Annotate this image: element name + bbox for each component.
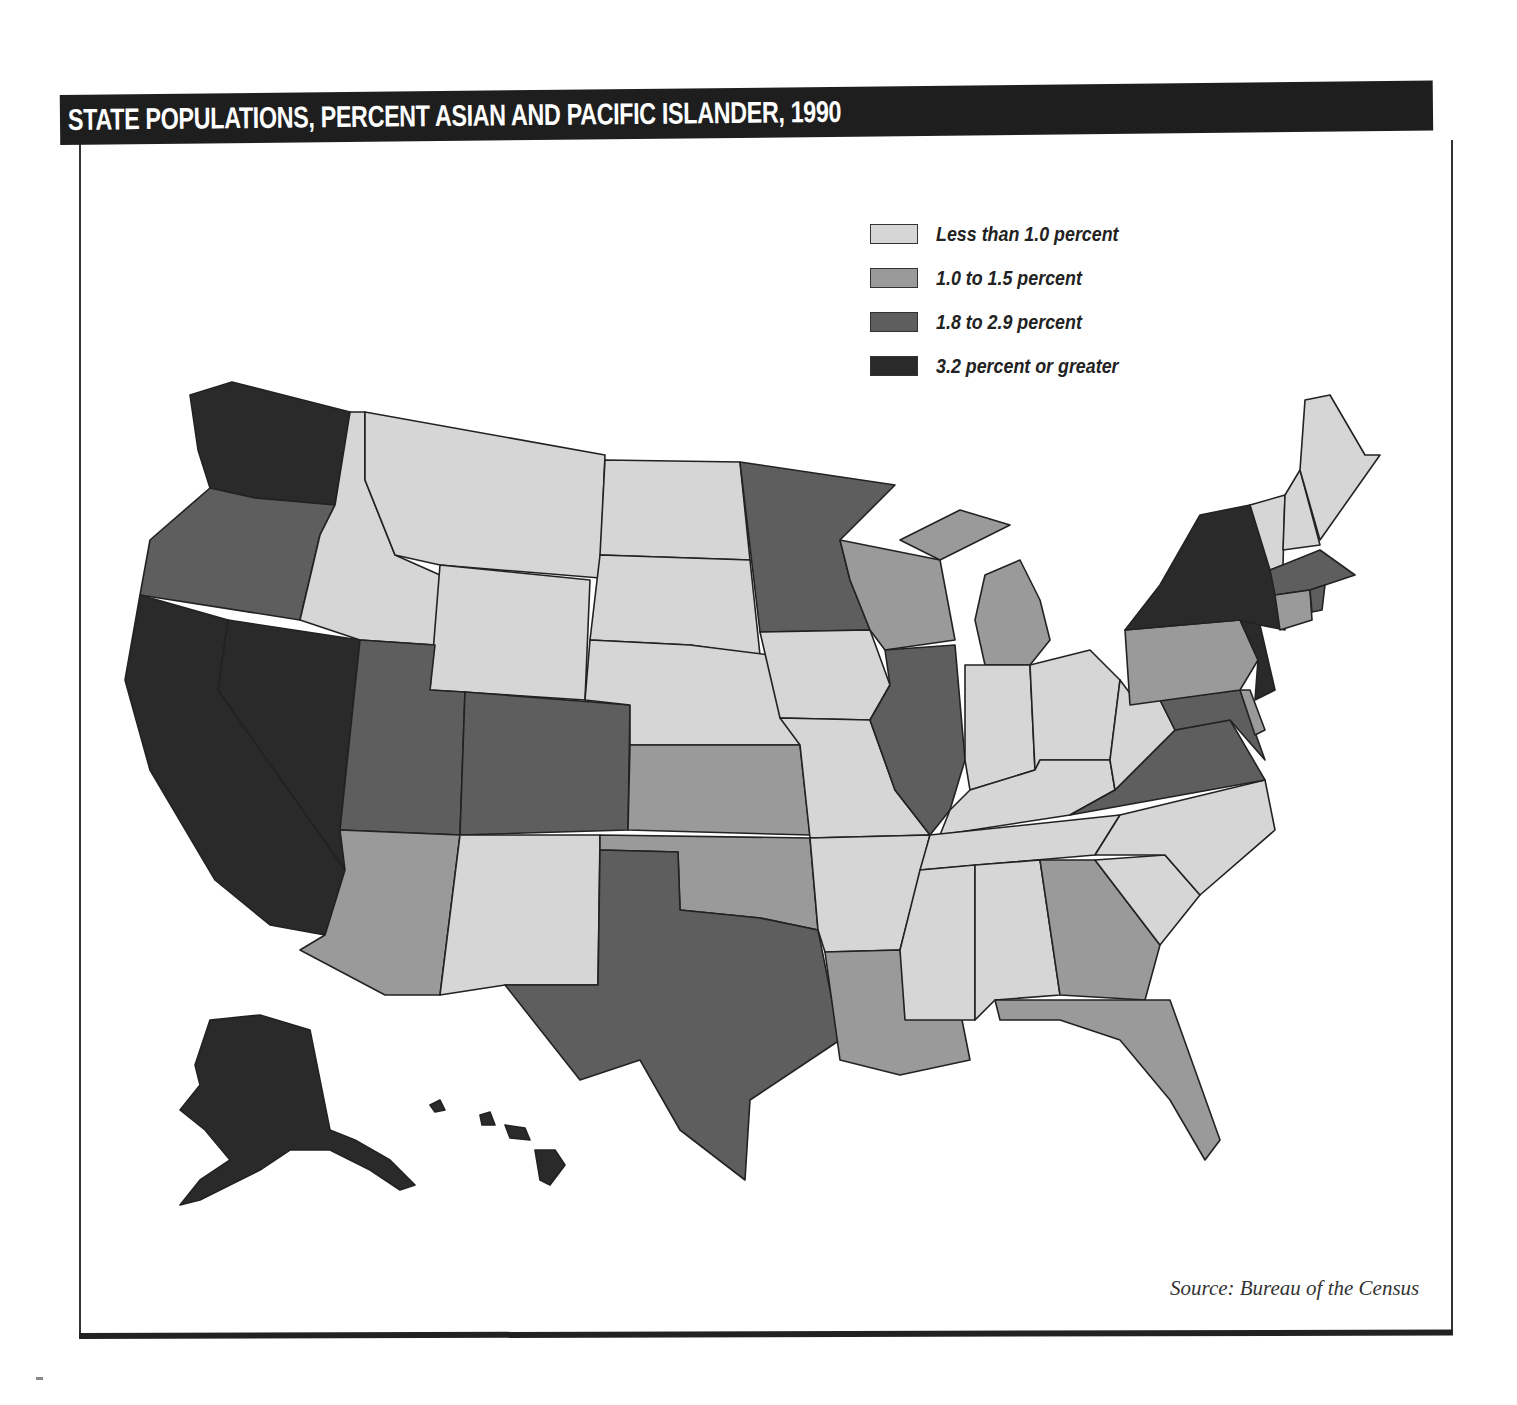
state-hawaii <box>430 1100 565 1185</box>
state-wyoming <box>430 565 590 700</box>
state-washington <box>190 382 350 505</box>
state-colorado <box>460 692 630 835</box>
state-north-dakota <box>600 460 750 560</box>
legend-item-3-2-or-greater: 3.2 percent or greater <box>870 344 1151 388</box>
state-connecticut <box>1275 590 1312 630</box>
legend-item-less-than-1: Less than 1.0 percent <box>870 212 1151 256</box>
state-iowa <box>760 630 890 720</box>
legend-label: Less than 1.0 percent <box>936 222 1119 246</box>
legend-label: 1.8 to 2.9 percent <box>936 310 1082 334</box>
legend-item-1-to-1-5: 1.0 to 1.5 percent <box>870 256 1151 300</box>
legend-label: 3.2 percent or greater <box>936 354 1119 378</box>
source-note: Source: Bureau of the Census <box>1170 1276 1419 1301</box>
state-montana <box>365 412 605 578</box>
state-kansas <box>628 745 810 835</box>
state-rhode-island <box>1310 585 1325 612</box>
legend-label: 1.0 to 1.5 percent <box>936 266 1082 290</box>
us-map: .c0{fill:#d6d6d6}.c1{fill:#9a9a9a}.c2{fi… <box>0 0 1517 1405</box>
legend-item-1-8-to-2-9: 1.8 to 2.9 percent <box>870 300 1151 344</box>
scan-artifact <box>36 1377 43 1380</box>
state-indiana <box>965 665 1035 790</box>
legend-swatch <box>870 268 918 288</box>
legend-swatch <box>870 356 918 376</box>
legend: Less than 1.0 percent 1.0 to 1.5 percent… <box>870 212 1151 388</box>
state-ohio <box>1030 650 1120 770</box>
legend-swatch <box>870 312 918 332</box>
state-florida <box>995 1000 1220 1160</box>
state-south-dakota <box>590 555 760 655</box>
state-alaska <box>180 1015 415 1205</box>
state-new-mexico <box>440 835 600 995</box>
legend-swatch <box>870 224 918 244</box>
